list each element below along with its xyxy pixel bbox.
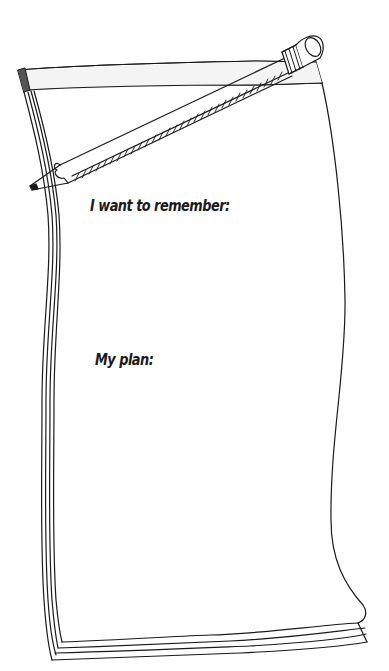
plan-prompt-label: My plan: xyxy=(95,351,153,369)
notepad-illustration xyxy=(0,0,389,671)
worksheet-page: I want to remember: My plan: xyxy=(0,0,389,671)
notepad-page xyxy=(18,61,367,660)
pencil-illustration xyxy=(30,35,324,190)
remember-prompt-label: I want to remember: xyxy=(90,197,230,215)
